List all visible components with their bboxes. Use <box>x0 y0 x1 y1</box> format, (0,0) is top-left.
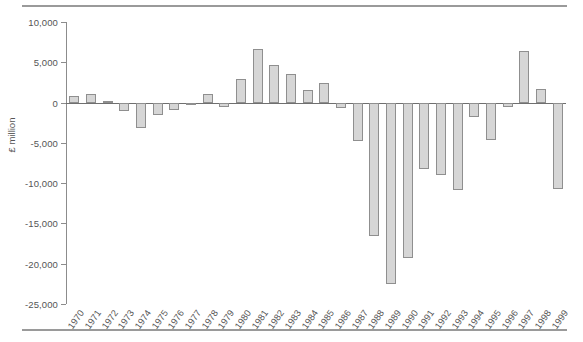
x-tick-label: 1990 <box>400 308 420 331</box>
x-tick-label: 1993 <box>450 308 470 331</box>
y-tick-label: -15,000 <box>25 218 58 229</box>
figure-top-rule <box>22 5 567 7</box>
bar <box>386 103 396 284</box>
bar <box>319 83 329 102</box>
bar <box>286 74 296 103</box>
bar <box>86 94 96 103</box>
bar <box>486 103 496 141</box>
bar <box>519 51 529 103</box>
y-tick-mark <box>61 103 66 104</box>
bar <box>253 49 263 103</box>
x-tick-label: 1989 <box>383 308 403 331</box>
x-tick-label: 1976 <box>166 308 186 331</box>
x-tick-label: 1992 <box>433 308 453 331</box>
bar <box>503 103 513 107</box>
x-tick-label: 1970 <box>66 308 86 331</box>
plot-area: 10,0005,0000-5,000-10,000-15,000-20,000-… <box>66 22 566 304</box>
x-tick-label: 1987 <box>350 308 370 331</box>
figure-bottom-rule <box>22 329 567 331</box>
bar <box>303 90 313 103</box>
y-tick-mark <box>61 223 66 224</box>
x-tick-label: 1988 <box>366 308 386 331</box>
x-tick-label: 1977 <box>183 308 203 331</box>
x-tick-label: 1986 <box>333 308 353 331</box>
bar <box>353 103 363 142</box>
bar <box>269 65 279 103</box>
x-tick-label: 1997 <box>516 308 536 331</box>
x-tick-label: 1998 <box>533 308 553 331</box>
x-tick-label: 1971 <box>83 308 103 331</box>
x-tick-label: 1984 <box>300 308 320 331</box>
bar <box>536 89 546 103</box>
bar <box>453 103 463 190</box>
y-tick-mark <box>61 264 66 265</box>
y-tick-label: 10,000 <box>28 17 58 28</box>
bar <box>169 103 179 110</box>
bar <box>203 94 213 103</box>
y-axis-label: £ million <box>6 118 17 153</box>
y-tick-label: -10,000 <box>25 178 58 189</box>
bar <box>153 103 163 115</box>
y-tick-mark <box>61 183 66 184</box>
x-tick-label: 1979 <box>216 308 236 331</box>
x-tick-label: 1999 <box>550 308 570 331</box>
x-tick-label: 1981 <box>250 308 270 331</box>
y-axis-line <box>66 22 67 304</box>
y-tick-label: 0 <box>53 97 58 108</box>
x-tick-label: 1991 <box>416 308 436 331</box>
x-tick-label: 1983 <box>283 308 303 331</box>
y-tick-label: 5,000 <box>34 57 58 68</box>
bar <box>103 101 113 103</box>
bar <box>119 103 129 111</box>
bar <box>469 103 479 118</box>
bar <box>369 103 379 236</box>
y-tick-mark <box>61 62 66 63</box>
bar <box>69 96 79 102</box>
x-tick-label: 1985 <box>316 308 336 331</box>
bar <box>403 103 413 259</box>
y-tick-label: -25,000 <box>25 299 58 310</box>
bar <box>236 79 246 102</box>
x-tick-label: 1972 <box>100 308 120 331</box>
x-tick-label: 1982 <box>266 308 286 331</box>
y-tick-label: -20,000 <box>25 258 58 269</box>
x-tick-label: 1994 <box>466 308 486 331</box>
x-tick-label: 1995 <box>483 308 503 331</box>
y-tick-mark <box>61 143 66 144</box>
y-tick-mark <box>61 304 66 305</box>
x-tick-label: 1980 <box>233 308 253 331</box>
x-tick-label: 1978 <box>200 308 220 331</box>
y-tick-mark <box>61 22 66 23</box>
chart-figure: £ million 10,0005,0000-5,000-10,000-15,0… <box>0 0 583 342</box>
y-tick-label: -5,000 <box>30 137 58 148</box>
bar <box>436 103 446 176</box>
bar <box>336 103 346 109</box>
bar <box>219 103 229 107</box>
bar <box>186 103 196 105</box>
x-tick-label: 1974 <box>133 308 153 331</box>
bar <box>136 103 146 129</box>
bar <box>419 103 429 169</box>
x-tick-label: 1975 <box>150 308 170 331</box>
x-tick-label: 1973 <box>116 308 136 331</box>
x-tick-label: 1996 <box>500 308 520 331</box>
bar <box>553 103 563 189</box>
